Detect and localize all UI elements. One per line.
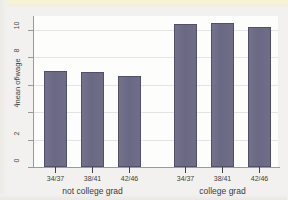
y-tick-label: 0 [13,159,20,175]
bar-fill [82,73,103,166]
x-tick-label: 34/37 [36,175,76,183]
y-tick [28,112,33,113]
bar-fill [45,72,66,166]
y-tick [28,57,33,58]
bar [248,27,271,167]
y-tick-label: 10 [13,21,20,37]
plot-area [33,16,278,167]
x-tick [55,167,57,173]
x-tick-label: 38/41 [73,175,113,183]
group-label: not college grad [28,186,158,196]
y-tick-label: 2 [13,131,20,147]
bar [81,72,104,167]
bar-fill [212,24,233,166]
gridline [33,57,278,58]
y-axis-line [33,16,34,168]
x-axis-line [28,167,280,168]
x-tick [129,167,131,173]
bar [174,24,197,167]
x-tick-label: 38/41 [203,175,243,183]
gridline [33,30,278,31]
y-tick [28,30,33,31]
x-tick-label: 34/37 [166,175,206,183]
gridline [33,85,278,86]
group-label: college grad [158,186,288,196]
x-tick [185,167,187,173]
bar-fill [175,25,196,166]
gridline [33,112,278,113]
y-tick [28,140,33,141]
x-tick-label: 42/46 [110,175,150,183]
bar-chart-figure: mean of wage 0246810 34/3738/4142/4634/3… [0,0,287,200]
bar [118,76,141,167]
x-tick [92,167,94,173]
y-tick-label: 8 [13,49,20,65]
bar [44,71,67,167]
y-tick-label: 6 [13,76,20,92]
plot-inner [33,16,278,167]
y-tick [28,167,33,168]
x-tick-label: 42/46 [240,175,280,183]
y-tick-label: 4 [13,104,20,120]
bar [211,23,234,167]
bar-fill [249,28,270,166]
bar-fill [119,77,140,166]
gridline [33,140,278,141]
y-tick [28,85,33,86]
x-tick [222,167,224,173]
x-tick [259,167,261,173]
